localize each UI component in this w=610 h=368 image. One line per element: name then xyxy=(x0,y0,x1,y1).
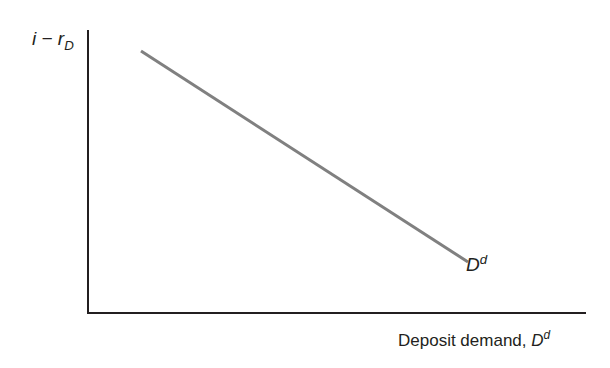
deposit-demand-curve xyxy=(141,51,468,262)
curve-label: Dd xyxy=(466,252,487,276)
x-axis-label: Deposit demand, Dd xyxy=(398,328,550,351)
diagram-canvas xyxy=(0,0,610,368)
y-axis-label: i − rD xyxy=(32,28,74,53)
